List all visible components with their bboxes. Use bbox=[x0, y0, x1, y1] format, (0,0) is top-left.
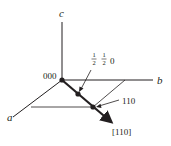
direction-110-arrow bbox=[62, 80, 110, 121]
half-point bbox=[75, 91, 80, 96]
c-axis-label: c bbox=[59, 7, 64, 19]
b-axis-label: b bbox=[157, 74, 163, 86]
a-axis-label: a bbox=[7, 111, 13, 123]
diagram-canvas: c b a 000 1 2 1 2 0 110 [110] bbox=[0, 0, 171, 146]
svg-text:2: 2 bbox=[92, 59, 95, 66]
end-point-110 bbox=[90, 104, 95, 109]
origin-label: 000 bbox=[43, 71, 57, 81]
direction-label: [110] bbox=[112, 127, 131, 137]
svg-text:1: 1 bbox=[92, 51, 95, 58]
half-pointer-head bbox=[79, 87, 84, 93]
end-pointer bbox=[99, 100, 119, 106]
a-axis bbox=[13, 80, 62, 117]
half-point-label: 1 2 1 2 0 bbox=[92, 51, 116, 66]
svg-text:1: 1 bbox=[102, 51, 105, 58]
origin-point bbox=[59, 77, 64, 82]
end-point-label: 110 bbox=[122, 96, 136, 106]
svg-text:2: 2 bbox=[102, 59, 105, 66]
svg-text:0: 0 bbox=[110, 56, 115, 66]
end-pointer-head bbox=[96, 104, 102, 108]
